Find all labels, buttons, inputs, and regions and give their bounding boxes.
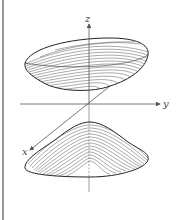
z-axis-label: z — [84, 13, 91, 24]
upper-sheet — [25, 38, 148, 90]
hyperboloid-diagram: z y x — [0, 0, 185, 220]
x-axis-label: x — [22, 146, 28, 157]
y-axis-label: y — [162, 98, 169, 109]
lower-sheet — [25, 122, 148, 177]
